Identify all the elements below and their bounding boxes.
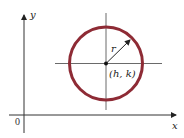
radius-label: r (111, 43, 117, 54)
y-axis-label: y (29, 9, 36, 20)
circle-diagram: y x 0 r (h, k) (0, 0, 184, 138)
x-axis-label: x (172, 120, 178, 131)
center-label: (h, k) (109, 68, 136, 79)
origin-label: 0 (15, 116, 20, 127)
radius-arrow (106, 40, 130, 64)
center-point (104, 62, 108, 66)
